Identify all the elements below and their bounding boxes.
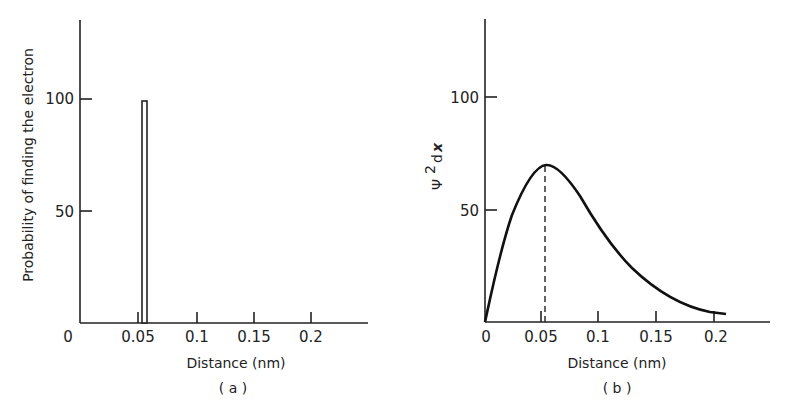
figure-canvas: 100 50 0 0.05 0.1 0.15 0.2 Distance (nm)…	[0, 0, 786, 413]
probability-density-curve	[485, 165, 726, 322]
x-axis-title-b: Distance (nm)	[567, 355, 666, 371]
x-axis-title-a: Distance (nm)	[186, 355, 285, 371]
panel-a: 100 50 0 0.05 0.1 0.15 0.2 Distance (nm)…	[20, 20, 368, 396]
y-axis-title-d: d	[429, 154, 445, 163]
x-tick-label-0.05-a: 0.05	[121, 328, 154, 346]
y-tick-label-100-a: 100	[45, 90, 74, 108]
y-tick-label-50-a: 50	[55, 203, 74, 221]
probability-bar	[142, 101, 147, 323]
x-tick-label-0.2-a: 0.2	[299, 328, 323, 346]
x-tick-label-0.15-b: 0.15	[639, 328, 672, 346]
y-axis-title-b: Ψ 2 d x	[422, 142, 445, 190]
y-axis-title-sup: 2	[422, 165, 438, 174]
panel-label-b: ( b )	[603, 380, 632, 396]
x-tick-label-0.05-b: 0.05	[524, 328, 557, 346]
panel-b: 100 50 0 0.05 0.1 0.15 0.2 Distance (nm)…	[422, 19, 770, 396]
y-tick-label-50-b: 50	[460, 202, 479, 220]
x-tick-label-0.2-b: 0.2	[704, 328, 728, 346]
panel-label-a: ( a )	[219, 380, 247, 396]
y-axis-title-a: Probability of finding the electron	[20, 48, 36, 282]
x-tick-label-0-a: 0	[63, 328, 73, 346]
y-tick-label-100-b: 100	[450, 89, 479, 107]
y-axis-title-x: x	[429, 142, 445, 153]
x-tick-label-0.15-a: 0.15	[237, 328, 270, 346]
x-tick-label-0.1-b: 0.1	[586, 328, 610, 346]
x-tick-label-0.1-a: 0.1	[185, 328, 209, 346]
y-axis-title-psi: Ψ	[429, 179, 445, 190]
x-tick-label-0-b: 0	[481, 328, 491, 346]
